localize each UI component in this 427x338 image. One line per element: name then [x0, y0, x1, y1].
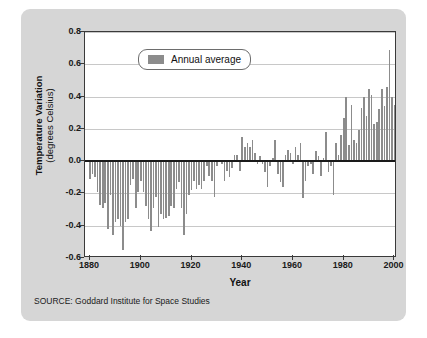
x-axis-tick-mark	[191, 255, 192, 260]
x-axis-tick-mark	[140, 255, 141, 260]
x-axis-tick-label: 1940	[231, 260, 251, 270]
legend-label-annual-average: Annual average	[171, 54, 241, 65]
x-axis-tick-mark	[343, 255, 344, 260]
figure-card: Temperature Variation (degrees Celsius) …	[21, 9, 406, 321]
legend-swatch-annual-average	[148, 55, 164, 64]
x-axis-tick-label: 1980	[333, 260, 353, 270]
x-axis-tick-mark	[292, 255, 293, 260]
y-axis-title-main: Temperature Variation	[34, 41, 45, 211]
y-axis-tick-labels: 0.80.60.40.20.0-0.2-0.4-0.6	[45, 31, 81, 257]
x-axis-tick-label: 2000	[383, 260, 403, 270]
x-axis-tick-mark	[89, 255, 90, 260]
source-note: SOURCE: Goddard Institute for Space Stud…	[34, 296, 210, 306]
x-axis-tick-label: 1880	[79, 260, 99, 270]
x-axis-tick-label: 1900	[130, 260, 150, 270]
x-axis-tick-label: 1960	[282, 260, 302, 270]
x-axis-tick-labels: 1880190019201940196019802000	[84, 260, 396, 274]
x-axis-tick-mark	[241, 255, 242, 260]
legend: Annual average	[138, 49, 251, 70]
x-axis-tick-mark	[393, 255, 394, 260]
y-axis-tick-mark	[79, 257, 84, 258]
x-axis-tick-label: 1920	[181, 260, 201, 270]
x-axis-title: Year	[84, 277, 396, 288]
zero-line	[85, 160, 395, 162]
